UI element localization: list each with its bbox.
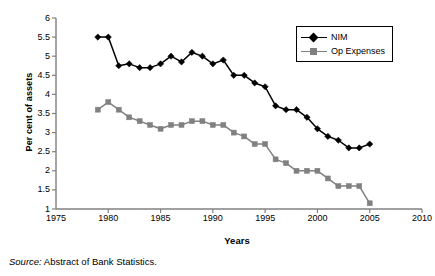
y-axis-tick-labels: 11.522.533.544.555.56 <box>12 0 50 276</box>
data-point-marker <box>315 168 320 173</box>
x-axis-tick-labels: 19751980198519901995200020052010 <box>56 213 422 227</box>
data-point-marker <box>231 130 236 135</box>
y-axis-tick-label: 4 <box>16 90 50 99</box>
data-point-marker <box>116 63 122 69</box>
x-axis-tick-label: 2010 <box>399 213 435 223</box>
data-point-marker <box>283 107 289 113</box>
y-axis-tick-label: 4.5 <box>16 71 50 80</box>
y-axis-tick-label: 5.5 <box>16 33 50 42</box>
series-op-expenses <box>95 100 372 206</box>
y-axis-tick-label: 2 <box>16 166 50 175</box>
data-point-marker <box>126 61 132 67</box>
y-axis-tick-label: 6 <box>16 14 50 23</box>
y-axis-tick-label: 3 <box>16 128 50 137</box>
data-point-marker <box>252 142 257 147</box>
data-point-marker <box>357 184 362 189</box>
data-point-marker <box>304 168 309 173</box>
data-point-marker <box>147 65 153 71</box>
data-point-marker <box>242 134 247 139</box>
data-point-marker <box>148 122 153 127</box>
data-point-marker <box>367 201 372 206</box>
legend-swatch <box>301 31 327 43</box>
x-axis-title: Years <box>52 235 422 246</box>
data-point-marker <box>200 119 205 124</box>
data-point-marker <box>346 184 351 189</box>
data-point-marker <box>179 122 184 127</box>
data-point-marker <box>221 122 226 127</box>
x-axis-tick-label: 1980 <box>85 213 131 223</box>
data-point-marker <box>263 142 268 147</box>
legend-swatch <box>301 45 327 57</box>
data-point-marker <box>262 84 268 90</box>
y-axis-tick-label: 1.5 <box>16 185 50 194</box>
data-point-marker <box>284 161 289 166</box>
y-axis-tick-label: 5 <box>16 52 50 61</box>
legend-item-op-expenses[interactable]: Op Expenses <box>301 44 385 58</box>
data-point-marker <box>105 34 111 40</box>
data-point-marker <box>273 157 278 162</box>
data-point-marker <box>137 65 143 71</box>
y-axis-tick-label: 2.5 <box>16 147 50 156</box>
data-point-marker <box>294 168 299 173</box>
series-line <box>98 102 370 203</box>
data-point-marker <box>158 126 163 131</box>
source-label: Source: <box>9 256 42 267</box>
x-axis-tick-label: 2000 <box>294 213 340 223</box>
data-point-marker <box>137 119 142 124</box>
x-axis-tick-label: 1985 <box>138 213 184 223</box>
data-point-marker <box>273 103 279 109</box>
data-point-marker <box>169 122 174 127</box>
x-axis-tick-label: 2005 <box>347 213 393 223</box>
data-point-marker <box>95 107 100 112</box>
chart-legend: NIMOp Expenses <box>296 26 393 62</box>
data-point-marker <box>127 115 132 120</box>
legend-label: NIM <box>331 32 348 42</box>
data-point-marker <box>367 141 373 147</box>
square-marker-icon <box>310 48 317 55</box>
data-point-marker <box>325 176 330 181</box>
chart-figure: Per cent of assets 11.522.533.544.555.56… <box>0 0 435 276</box>
data-point-marker <box>189 119 194 124</box>
diamond-marker-icon <box>309 33 319 43</box>
data-point-marker <box>210 122 215 127</box>
x-axis-tick-label: 1995 <box>242 213 288 223</box>
source-text: Abstract of Bank Statistics. <box>42 256 157 267</box>
y-axis-tick-label: 3.5 <box>16 109 50 118</box>
data-point-marker <box>106 100 111 105</box>
data-point-marker <box>116 107 121 112</box>
data-point-marker <box>95 34 101 40</box>
x-axis-tick-label: 1975 <box>33 213 79 223</box>
source-caption: Source: Abstract of Bank Statistics. <box>9 256 157 267</box>
legend-label: Op Expenses <box>331 46 385 56</box>
legend-item-nim[interactable]: NIM <box>301 30 385 44</box>
data-point-marker <box>336 184 341 189</box>
x-axis-tick-label: 1990 <box>190 213 236 223</box>
data-point-marker <box>356 145 362 151</box>
